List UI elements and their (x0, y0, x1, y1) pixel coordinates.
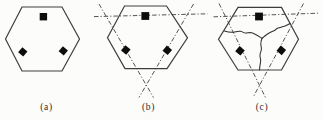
panel-caption-b: (b) (142, 102, 155, 113)
site-square-top-c (255, 13, 263, 21)
panel-caption-c: (c) (256, 102, 268, 113)
partition-edge-left-branch-c (225, 31, 263, 38)
panel-a: (a) (6, 7, 80, 113)
bisector-dashdot-line-c-0 (214, 13, 319, 17)
site-square-left-b (121, 45, 131, 55)
site-square-right-a (59, 46, 68, 55)
panel-b: (b) (94, 4, 208, 113)
partition-edge-right-branch-c (262, 24, 290, 39)
panel-c: (c) (214, 4, 319, 113)
hexagon-partition-diagram: (a)(b)(c) (0, 0, 322, 120)
site-square-right-b (163, 46, 173, 56)
site-square-left-c (235, 46, 245, 56)
figure-canvas: (a)(b)(c) (0, 0, 322, 120)
site-square-right-c (277, 46, 287, 56)
site-square-top-a (40, 13, 47, 20)
panel-caption-a: (a) (40, 102, 52, 113)
site-square-top-b (141, 12, 149, 20)
partition-edge-down-branch-c (260, 38, 263, 70)
bisector-dashdot-line-b-0 (94, 14, 208, 17)
site-square-left-a (18, 47, 27, 56)
